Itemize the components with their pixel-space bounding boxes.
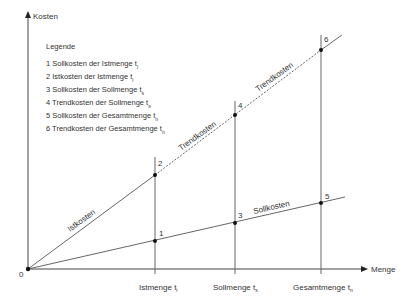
point-5-label: 5 (325, 192, 330, 201)
x-tick-sollmenge: Sollmenge ts (213, 283, 258, 293)
x-tick-istmenge: Istmenge ti (139, 283, 177, 293)
point-6 (319, 48, 323, 52)
x-axis-arrow-icon (361, 266, 368, 272)
y-axis-arrow-icon (25, 11, 31, 18)
point-2 (153, 173, 157, 177)
legend-item: 3 Sollkosten der Sollmenge ts (46, 85, 165, 98)
legend-title: Legende (46, 42, 165, 53)
origin-point (26, 267, 30, 271)
trendkosten-line (155, 50, 321, 175)
trendkosten-label-1: Trendkosten (177, 119, 218, 152)
point-1 (153, 239, 157, 243)
x-tick-gesamtmenge: Gesamtmenge tn (293, 283, 353, 293)
legend-item: 2 Istkosten der Istmenge ti (46, 72, 165, 85)
point-3 (233, 221, 237, 225)
sollkosten-line (28, 197, 345, 269)
point-2-label: 2 (158, 159, 163, 168)
point-5 (319, 201, 323, 205)
trendkosten-label-2: Trendkosten (254, 60, 295, 93)
point-4-label: 4 (238, 101, 243, 110)
legend-item: 6 Trendkosten der Gesamtmenge tn (46, 124, 165, 137)
point-4 (233, 113, 237, 117)
y-axis-label: Kosten (33, 12, 58, 21)
legend-item: 5 Sollkosten der Gesamtmenge tn (46, 111, 165, 124)
point-6-label: 6 (324, 35, 329, 44)
legend: Legende 1 Sollkosten der Istmenge ti 2 I… (46, 42, 165, 137)
legend-item: 4 Trendkosten der Sollmenge ts (46, 98, 165, 111)
origin-label: 0 (19, 270, 24, 279)
point-1-label: 1 (159, 229, 164, 238)
point-3-label: 3 (238, 211, 243, 220)
legend-item: 1 Sollkosten der Istmenge ti (46, 59, 165, 72)
x-axis-label: Menge (371, 265, 396, 274)
